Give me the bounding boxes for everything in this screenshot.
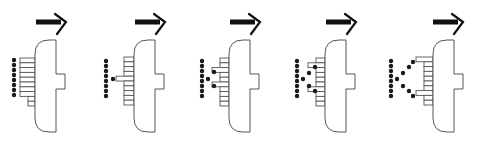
dot bbox=[301, 77, 305, 81]
dot bbox=[104, 84, 108, 88]
rung bbox=[220, 96, 229, 101]
dot bbox=[104, 59, 108, 63]
rung bbox=[28, 96, 35, 101]
figure-stage bbox=[0, 0, 478, 144]
shuttle-body bbox=[229, 40, 259, 132]
rung bbox=[416, 57, 433, 62]
rung bbox=[220, 58, 229, 63]
rung bbox=[220, 101, 229, 106]
dot bbox=[389, 69, 393, 73]
dot bbox=[12, 73, 16, 77]
panel-4 bbox=[295, 14, 356, 132]
rung bbox=[424, 67, 433, 72]
rung bbox=[20, 58, 35, 63]
dot bbox=[295, 89, 299, 93]
dot bbox=[104, 94, 108, 98]
dot bbox=[12, 88, 16, 92]
dot bbox=[411, 94, 415, 98]
dot bbox=[200, 89, 204, 93]
rung bbox=[424, 81, 433, 86]
rung bbox=[220, 77, 229, 82]
rung bbox=[124, 100, 134, 105]
dot bbox=[295, 79, 299, 83]
ladder-rungs bbox=[416, 57, 433, 105]
rung bbox=[20, 87, 35, 92]
dot bbox=[12, 83, 16, 87]
panel-3 bbox=[200, 14, 260, 132]
dot bbox=[389, 89, 393, 93]
dot bbox=[111, 77, 115, 81]
rung bbox=[20, 77, 35, 82]
dot bbox=[295, 64, 299, 68]
direction-arrow-icon bbox=[433, 14, 463, 34]
dot bbox=[307, 84, 311, 88]
shuttle-body bbox=[433, 40, 463, 132]
dot bbox=[200, 64, 204, 68]
rung bbox=[424, 76, 433, 81]
rung bbox=[124, 81, 134, 86]
dot bbox=[389, 94, 393, 98]
dot bbox=[401, 71, 405, 75]
dot bbox=[295, 74, 299, 78]
ladder-rungs bbox=[20, 58, 35, 106]
direction-arrow-icon bbox=[326, 14, 356, 34]
rung bbox=[220, 87, 229, 92]
rung bbox=[124, 91, 134, 96]
dot-pattern bbox=[104, 59, 115, 98]
dot bbox=[389, 84, 393, 88]
dot bbox=[104, 64, 108, 68]
ladder-rungs bbox=[212, 58, 229, 106]
dot bbox=[206, 77, 210, 81]
rung bbox=[316, 96, 325, 101]
rung bbox=[20, 92, 35, 97]
dot bbox=[295, 69, 299, 73]
rung bbox=[124, 71, 134, 76]
rung bbox=[220, 63, 229, 68]
direction-arrow-icon bbox=[135, 14, 165, 34]
rung bbox=[124, 67, 134, 72]
direction-arrow-icon bbox=[36, 14, 66, 34]
ladder-rungs bbox=[308, 58, 325, 106]
rung bbox=[20, 72, 35, 77]
rung bbox=[124, 95, 134, 100]
rung bbox=[424, 100, 433, 105]
dot bbox=[200, 94, 204, 98]
dot bbox=[313, 65, 317, 69]
shuttle-body bbox=[35, 40, 65, 132]
dot bbox=[212, 70, 216, 74]
panel-5 bbox=[389, 14, 463, 132]
rung bbox=[424, 62, 433, 67]
rung bbox=[316, 72, 325, 77]
dot bbox=[389, 59, 393, 63]
rung bbox=[20, 68, 35, 73]
dot bbox=[407, 89, 411, 93]
dot bbox=[104, 89, 108, 93]
rung bbox=[20, 82, 35, 87]
dot bbox=[104, 79, 108, 83]
dot bbox=[12, 58, 16, 62]
dot-pattern bbox=[389, 59, 415, 98]
dot bbox=[389, 64, 393, 68]
rung bbox=[316, 77, 325, 82]
rung bbox=[316, 101, 325, 106]
direction-arrow-icon bbox=[230, 14, 260, 34]
dot-pattern bbox=[12, 58, 16, 97]
rung bbox=[316, 58, 325, 63]
dot bbox=[313, 89, 317, 93]
rung bbox=[424, 95, 433, 100]
dot-pattern bbox=[200, 59, 216, 98]
rung bbox=[220, 72, 229, 77]
rung bbox=[316, 82, 325, 87]
dot bbox=[104, 74, 108, 78]
ladder-rungs bbox=[116, 57, 134, 105]
rung bbox=[424, 86, 433, 91]
dot bbox=[104, 69, 108, 73]
dot bbox=[407, 65, 411, 69]
rung bbox=[416, 91, 433, 96]
rung bbox=[424, 71, 433, 76]
dot bbox=[389, 79, 393, 83]
dot bbox=[212, 84, 216, 88]
dot bbox=[295, 84, 299, 88]
dot bbox=[200, 84, 204, 88]
panel-2 bbox=[104, 14, 165, 132]
